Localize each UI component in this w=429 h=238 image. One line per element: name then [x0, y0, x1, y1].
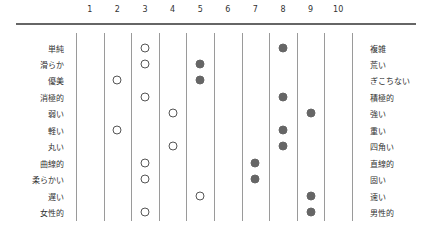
open-circle-marker [141, 92, 150, 101]
row-label-left: 優美 [48, 75, 64, 86]
row-label-right: 速い [370, 190, 386, 201]
filled-circle-marker [306, 191, 315, 200]
x-tick-label: 3 [142, 5, 147, 14]
open-circle-marker [113, 125, 122, 134]
filled-circle-marker [279, 92, 288, 101]
row-label-right: ぎこちない [370, 75, 410, 86]
row-label-left: 滑らか [40, 58, 64, 69]
row-label-left: 曲線的 [40, 157, 64, 168]
open-circle-marker [168, 142, 177, 151]
open-circle-marker [141, 43, 150, 52]
gridline [159, 33, 160, 221]
gridline [186, 33, 187, 221]
filled-circle-marker [279, 142, 288, 151]
x-tick-label: 6 [225, 5, 230, 14]
open-circle-marker [196, 191, 205, 200]
x-tick-label: 7 [253, 5, 258, 14]
x-tick-label: 1 [87, 5, 92, 14]
row-label-left: 丸い [48, 141, 64, 152]
open-circle-marker [141, 208, 150, 217]
open-circle-marker [141, 158, 150, 167]
row-label-left: 柔らかい [32, 174, 64, 185]
gridline [76, 33, 77, 221]
x-tick-label: 4 [170, 5, 175, 14]
row-label-left: 弱い [48, 108, 64, 119]
filled-circle-marker [196, 59, 205, 68]
x-tick-label: 2 [115, 5, 120, 14]
filled-circle-marker [279, 125, 288, 134]
filled-circle-marker [306, 208, 315, 217]
filled-circle-marker [306, 109, 315, 118]
row-label-right: 荒い [370, 58, 386, 69]
gridline [269, 33, 270, 221]
row-label-right: 男性的 [370, 207, 394, 218]
row-label-right: 重い [370, 124, 386, 135]
row-label-left: 単純 [48, 42, 64, 53]
gridline [214, 33, 215, 221]
row-label-right: 直線的 [370, 157, 394, 168]
x-tick-label: 9 [308, 5, 313, 14]
row-label-right: 固い [370, 174, 386, 185]
x-tick-label: 10 [333, 5, 343, 14]
axis-line [16, 23, 416, 25]
open-circle-marker [141, 59, 150, 68]
filled-circle-marker [196, 76, 205, 85]
x-tick-label: 8 [280, 5, 285, 14]
filled-circle-marker [251, 158, 260, 167]
gridline [104, 33, 105, 221]
filled-circle-marker [251, 175, 260, 184]
row-label-left: 消極的 [40, 91, 64, 102]
semantic-differential-chart: 12345678910単純複雑滑らか荒い優美ぎこちない消極的積極的弱い強い軽い重… [0, 0, 429, 238]
row-label-right: 強い [370, 108, 386, 119]
gridline [242, 33, 243, 221]
gridline [297, 33, 298, 221]
row-label-right: 複雑 [370, 42, 386, 53]
filled-circle-marker [279, 43, 288, 52]
row-label-right: 四角い [370, 141, 394, 152]
gridline [131, 33, 132, 221]
row-label-left: 軽い [48, 124, 64, 135]
open-circle-marker [168, 109, 177, 118]
open-circle-marker [141, 175, 150, 184]
gridline [352, 33, 353, 221]
x-tick-label: 5 [198, 5, 203, 14]
gridline [324, 33, 325, 221]
row-label-left: 遅い [48, 190, 64, 201]
open-circle-marker [113, 76, 122, 85]
row-label-left: 女性的 [40, 207, 64, 218]
row-label-right: 積極的 [370, 91, 394, 102]
